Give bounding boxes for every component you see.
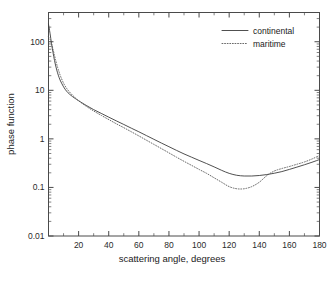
series-line-maritime xyxy=(49,37,320,189)
legend-label-continental: continental xyxy=(253,26,294,36)
legend-label-maritime: maritime xyxy=(253,39,286,49)
y-tick-label: 0.1 xyxy=(33,182,45,192)
x-tick-label: 80 xyxy=(164,240,174,250)
y-tick-label: 10 xyxy=(35,85,45,95)
chart-svg: 1001010.10.01 20406080100120140160180 co… xyxy=(0,0,336,283)
x-tick-label: 40 xyxy=(104,240,114,250)
caption-strip xyxy=(0,266,336,283)
x-tick-label: 100 xyxy=(192,240,206,250)
y-tick-label: 0.01 xyxy=(28,231,45,241)
x-tick-label: 180 xyxy=(312,240,326,250)
legend: continental maritime xyxy=(222,26,294,49)
x-tick-label: 160 xyxy=(282,240,296,250)
x-tick-label: 120 xyxy=(222,240,236,250)
y-axis-title: phase function xyxy=(5,93,16,155)
x-tick-label: 60 xyxy=(134,240,144,250)
y-tick-labels: 1001010.10.01 xyxy=(28,37,45,241)
data-series-group xyxy=(49,24,320,189)
phase-function-chart: 1001010.10.01 20406080100120140160180 co… xyxy=(0,0,336,283)
x-tick-label: 20 xyxy=(74,240,84,250)
y-tick-label: 100 xyxy=(30,37,44,47)
y-tick-label: 1 xyxy=(40,134,45,144)
x-tick-labels: 20406080100120140160180 xyxy=(74,240,327,250)
x-tick-label: 140 xyxy=(252,240,266,250)
x-axis-title: scattering angle, degrees xyxy=(119,253,226,264)
